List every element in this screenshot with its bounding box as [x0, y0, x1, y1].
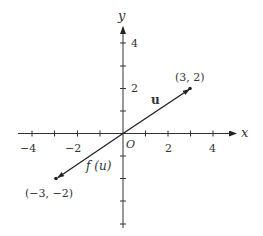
y-axis-label: y: [117, 8, 126, 23]
point-label-3-2: (3, 2): [175, 71, 205, 84]
x-axis-label: x: [241, 125, 249, 140]
origin-label: O: [126, 138, 135, 151]
x-tick-label-2: 2: [165, 142, 172, 155]
vector-u-label: u: [151, 93, 160, 107]
x-tick-label-neg4: −4: [20, 142, 36, 155]
y-tick-label-4: 4: [131, 37, 138, 50]
point-3-2: [188, 87, 192, 91]
y-tick-label-2: 2: [131, 82, 138, 95]
vector-f-u-label: f (u): [85, 159, 112, 173]
plot-canvas: y x O −4 −2 2 4 4 2 u f (u) (3, 2) (−3, …: [0, 0, 263, 236]
x-tick-label-neg2: −2: [65, 142, 81, 155]
point-neg3-neg2: [54, 177, 58, 181]
x-tick-label-4: 4: [209, 142, 216, 155]
vector-diagram: y x O −4 −2 2 4 4 2 u f (u) (3, 2) (−3, …: [0, 0, 263, 236]
point-label-neg3-neg2: (−3, −2): [25, 187, 73, 200]
